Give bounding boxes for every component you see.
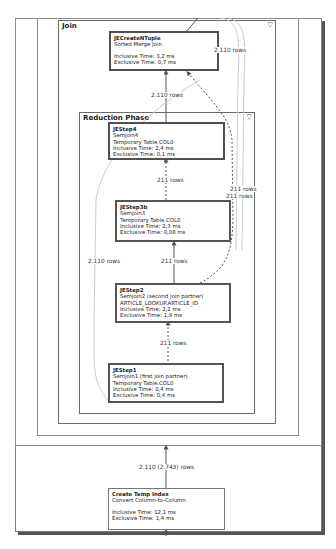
edge-label: 2.110 rows — [151, 92, 183, 98]
edge-label: 211 rows — [226, 193, 252, 199]
node-jestep2[interactable]: JEStep2 Semjoin2 (second join partner) A… — [115, 283, 231, 323]
edge-label: 2.110 rows — [88, 258, 120, 264]
node-exclusive-time: Exclusive Time: 0,1 ms — [113, 151, 220, 157]
node-jestep3b[interactable]: JEStep3b Semjoin3 Temporary Table.COL0 I… — [115, 200, 231, 242]
edge-label: 2.110 rows — [214, 47, 246, 53]
edge-label: 211 rows — [161, 258, 187, 264]
node-exclusive-time: Exclusive Time: 1,4 ms — [112, 515, 221, 521]
node-jestep1[interactable]: JEStep1 Semjoin1 (first join partner) Te… — [108, 363, 224, 403]
node-exclusive-time: Exclusive Time: 0,08 ms — [120, 229, 226, 235]
node-exclusive-time: Exclusive Time: 1,9 ms — [120, 312, 226, 318]
edge-label: 2.110 (2.743) rows — [139, 464, 194, 470]
node-jestep4[interactable]: JEStep4 Semjoin4 Temporary Table.COL0 In… — [108, 122, 225, 160]
node-create-temp-index[interactable]: Create Temp Index Convert Column-to-Colu… — [108, 488, 225, 530]
node-exclusive-time: Exclusive Time: 0,4 ms — [113, 392, 219, 398]
node-exclusive-time: Exclusive Time: 0,7 ms — [114, 59, 214, 65]
edge-label: 211 rows — [157, 177, 183, 183]
edge-label: 211 rows — [230, 186, 256, 192]
edge-label: 211 rows — [160, 340, 186, 346]
node-jecreatentuple[interactable]: JECreateNTuple Sorted Merge Join Inclusi… — [109, 31, 219, 71]
